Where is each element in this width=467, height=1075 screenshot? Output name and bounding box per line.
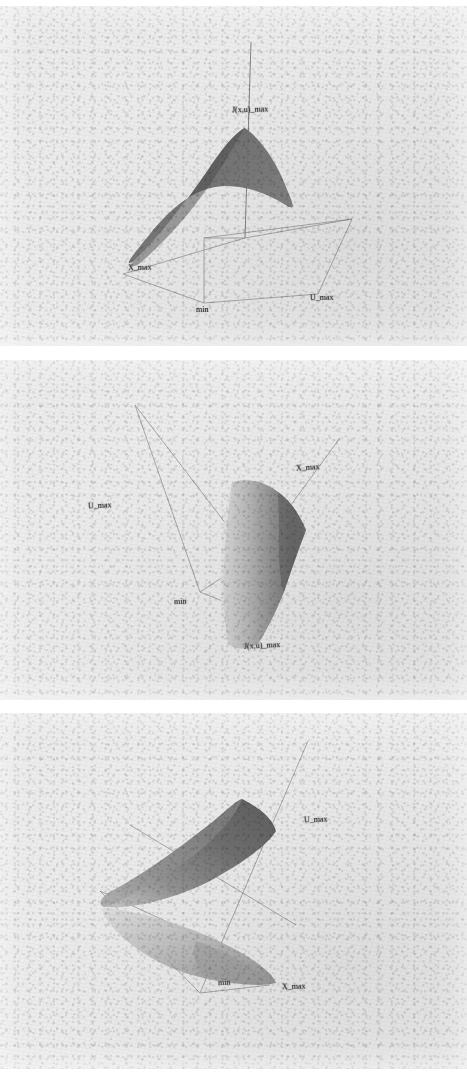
surface-plot-panel-1: J(x,u)_max X_max min U_max [0,6,467,346]
plot-area-1 [0,6,467,346]
plot-area-2 [0,360,467,700]
axis-label-x-max-panel-3: X_max [282,983,306,992]
axis-label-min-panel-3: min [218,979,231,988]
axis-label-x-max-panel-2: X_max [296,463,320,473]
axis-label-min-panel-2: min [174,598,187,607]
axis-label-min-panel-1: min [196,306,208,314]
axis-label-u-max-panel-1: U_max [310,294,334,302]
surface-plot-panel-3: U_max min X_max [0,713,467,1069]
axis-label-x-max-panel-1: X_max [128,264,152,273]
surface-plot-panel-2: X_max U_max min J(x,u)_max [0,360,467,700]
figure-page: J(x,u)_max X_max min U_max [0,0,467,1075]
axis-label-u-max-panel-3: U_max [304,816,328,825]
plot-area-3 [0,713,467,1069]
axis-label-u-max-panel-2: U_max [88,501,112,510]
axis-label-j-max-panel-1: J(x,u)_max [232,106,268,115]
